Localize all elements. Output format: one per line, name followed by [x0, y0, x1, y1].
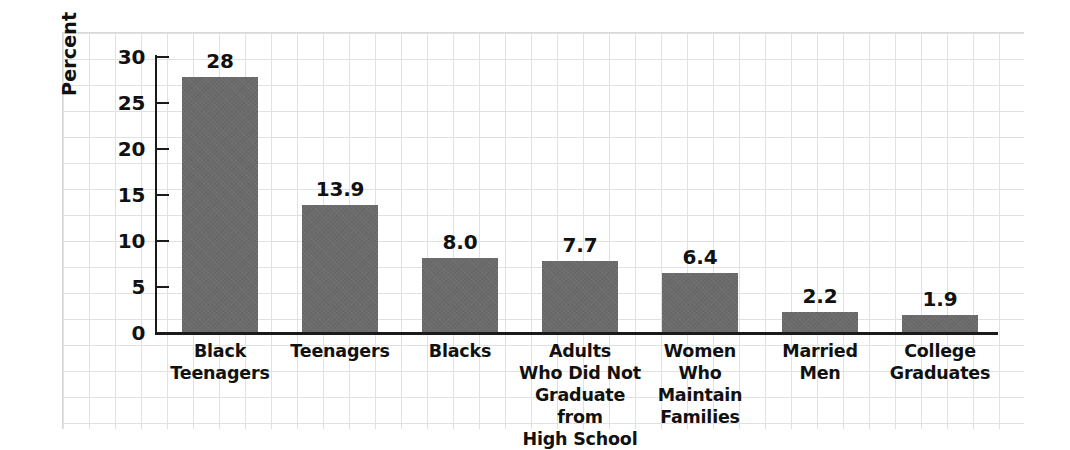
category-line: Teenagers	[280, 340, 400, 362]
category-line: Maintain	[644, 384, 756, 406]
category-line: Who	[644, 362, 756, 384]
category-line: Black	[160, 340, 280, 362]
bar-blacks[interactable]	[422, 258, 498, 332]
bar-married-men[interactable]	[782, 312, 858, 332]
category-line: Married	[760, 340, 880, 362]
y-tick-label-10: 10	[115, 229, 145, 253]
y-tick-0	[155, 332, 169, 334]
category-line: Teenagers	[160, 362, 280, 384]
category-line: High School	[514, 428, 646, 450]
bar-value-college-graduates: 1.9	[902, 287, 978, 311]
y-tick-label-20: 20	[115, 137, 145, 161]
category-line: Graduates	[878, 362, 1002, 384]
category-label-women-maintain-families: Women Who Maintain Families	[644, 340, 756, 428]
category-label-teenagers: Teenagers	[280, 340, 400, 362]
bar-value-married-men: 2.2	[782, 284, 858, 308]
category-line: Women	[644, 340, 756, 362]
bar-teenagers[interactable]	[302, 205, 378, 332]
category-line: Families	[644, 406, 756, 428]
y-tick-label-30: 30	[115, 45, 145, 69]
bar-value-women-maintain-families: 6.4	[662, 245, 738, 269]
category-label-blacks: Blacks	[400, 340, 520, 362]
bar-black-teenagers[interactable]	[182, 77, 258, 332]
category-line: College	[878, 340, 1002, 362]
bar-women-maintain-families[interactable]	[662, 273, 738, 332]
y-tick-label-5: 5	[115, 275, 145, 299]
y-tick-30	[155, 56, 169, 58]
bar-college-graduates[interactable]	[902, 315, 978, 332]
category-label-college-graduates: College Graduates	[878, 340, 1002, 384]
bar-adults-no-hs-diploma[interactable]	[542, 261, 618, 332]
category-line: Adults	[514, 340, 646, 362]
category-label-black-teenagers: Black Teenagers	[160, 340, 280, 384]
category-line: Graduate from	[514, 384, 646, 428]
y-tick-label-0: 0	[115, 321, 145, 345]
y-tick-label-25: 25	[115, 91, 145, 115]
bar-value-blacks: 8.0	[422, 230, 498, 254]
bar-value-adults-no-hs-diploma: 7.7	[542, 233, 618, 257]
y-tick-15	[155, 194, 169, 196]
category-label-adults-no-hs-diploma: Adults Who Did Not Graduate from High Sc…	[514, 340, 646, 450]
bar-value-black-teenagers: 28	[182, 49, 258, 73]
x-axis-baseline	[155, 332, 998, 335]
category-line: Who Did Not	[514, 362, 646, 384]
bar-value-teenagers: 13.9	[302, 177, 378, 201]
y-tick-25	[155, 102, 169, 104]
y-tick-20	[155, 148, 169, 150]
category-label-married-men: Married Men	[760, 340, 880, 384]
y-tick-10	[155, 240, 169, 242]
y-axis-title: Percent	[58, 12, 80, 96]
category-line: Blacks	[400, 340, 520, 362]
y-tick-5	[155, 286, 169, 288]
y-tick-label-15: 15	[115, 183, 145, 207]
category-line: Men	[760, 362, 880, 384]
